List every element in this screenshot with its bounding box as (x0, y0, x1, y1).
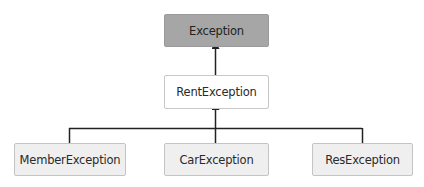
node-rent-exception-label: RentException (176, 85, 256, 99)
node-member-exception: MemberException (14, 143, 126, 176)
node-res-exception: ResException (312, 143, 413, 176)
node-exception-label: Exception (189, 24, 244, 38)
node-res-exception-label: ResException (325, 153, 400, 167)
class-hierarchy-diagram: Exception RentException MemberException … (0, 0, 424, 187)
node-car-exception-label: CarException (179, 153, 253, 167)
node-rent-exception: RentException (164, 75, 269, 109)
node-exception: Exception (164, 14, 269, 47)
node-car-exception: CarException (164, 143, 269, 176)
node-member-exception-label: MemberException (20, 153, 121, 167)
